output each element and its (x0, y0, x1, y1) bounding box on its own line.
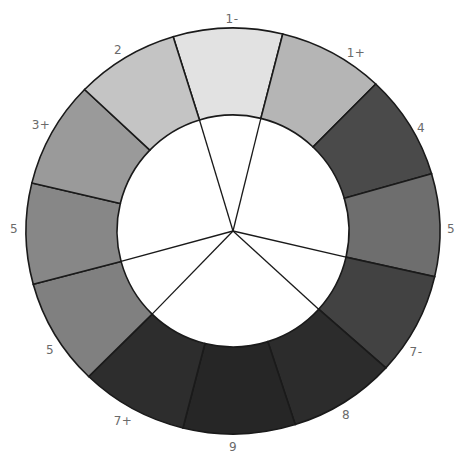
label-5-right: 5 (447, 222, 455, 236)
spoke-line (152, 231, 233, 314)
label-5-left: 5 (10, 222, 18, 236)
label-5-lower-left: 5 (46, 343, 54, 357)
label-8: 8 (342, 408, 350, 422)
label-4: 4 (417, 121, 425, 135)
label-1-minus: 1- (226, 12, 239, 26)
label-7-minus: 7- (410, 345, 423, 359)
label-1-plus: 1+ (347, 46, 366, 60)
value-wheel (0, 0, 464, 465)
label-9: 9 (229, 440, 237, 454)
spoke-line (121, 231, 233, 261)
spoke-line (199, 120, 233, 231)
label-2: 2 (114, 43, 122, 57)
spoke-line (233, 231, 319, 309)
label-7-plus: 7+ (114, 414, 133, 428)
spoke-line (233, 118, 261, 231)
label-3-plus: 3+ (32, 118, 51, 132)
center-spokes (121, 118, 346, 314)
spoke-line (233, 231, 346, 257)
